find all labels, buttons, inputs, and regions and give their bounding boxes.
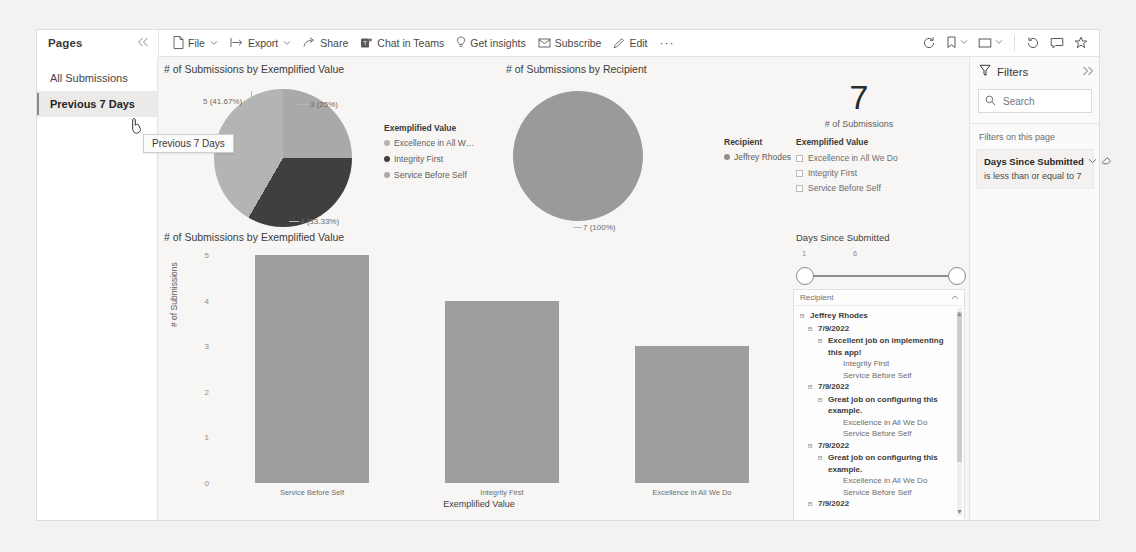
slider-handle-max[interactable] xyxy=(948,267,966,285)
checkbox-icon[interactable] xyxy=(796,170,803,177)
expand-collapse-icon[interactable]: ⊟ xyxy=(808,382,815,394)
tooltip-label: Previous 7 Days xyxy=(152,138,225,149)
subscribe-button[interactable]: Subscribe xyxy=(532,34,608,52)
pie-chart-recipient[interactable] xyxy=(513,91,643,221)
page-title: Pages xyxy=(48,37,82,49)
chevron-down-icon[interactable] xyxy=(1088,157,1097,166)
bookmark-icon[interactable] xyxy=(942,33,972,52)
report-canvas: # of Submissions by Exemplified Value 5 … xyxy=(159,57,969,521)
view-icon[interactable] xyxy=(974,34,1007,52)
expand-collapse-icon[interactable]: ⊟ xyxy=(800,311,807,323)
matrix-row[interactable]: ⊟Excellent job on implementing this app! xyxy=(800,335,954,358)
matrix-row[interactable]: Service Before Self xyxy=(800,428,954,440)
chevron-down-icon[interactable] xyxy=(283,40,291,46)
matrix-row[interactable]: ⊟Great job on configuring this example. xyxy=(800,452,954,475)
bar[interactable] xyxy=(255,255,369,483)
export-label: Export xyxy=(248,37,278,49)
slider-ticks: 1 6 xyxy=(796,249,966,263)
slicer-option[interactable]: Service Before Self xyxy=(796,183,898,193)
legend-swatch-icon xyxy=(384,172,390,178)
legend-item[interactable]: Integrity First xyxy=(384,154,474,164)
slider-track[interactable] xyxy=(796,265,966,287)
matrix-row[interactable]: ⊟Great job on configuring this example. xyxy=(800,394,954,417)
chevron-double-right-icon[interactable] xyxy=(1081,66,1094,78)
bar[interactable] xyxy=(445,301,559,483)
edit-button[interactable]: Edit xyxy=(607,34,653,52)
chat-in-teams-button[interactable]: T Chat in Teams xyxy=(354,34,450,52)
matrix-row[interactable]: Service Before Self xyxy=(800,370,954,382)
slicer-option-label: Excellence in All We Do xyxy=(808,153,898,163)
more-options-button[interactable]: ··· xyxy=(654,36,681,50)
pages-pane-header: Pages xyxy=(36,29,158,57)
bar[interactable] xyxy=(635,346,749,483)
comment-icon[interactable] xyxy=(1046,34,1068,52)
filters-search-box[interactable] xyxy=(978,89,1092,113)
matrix-row[interactable]: Integrity First xyxy=(800,358,954,370)
legend-item[interactable]: Service Before Self xyxy=(384,170,474,180)
search-input[interactable] xyxy=(1001,95,1085,108)
matrix-row[interactable]: ⊟7/9/2022 xyxy=(800,440,954,453)
matrix-row-label: 7/9/2022 xyxy=(818,498,849,510)
chevron-down-icon[interactable] xyxy=(960,38,968,47)
matrix-row[interactable]: ⊟7/9/2022 xyxy=(800,381,954,394)
scroll-down-arrow-icon[interactable]: ▼ xyxy=(956,508,963,515)
matrix-row-label: Great job on configuring this example. xyxy=(828,452,954,475)
matrix-scrollbar-thumb[interactable] xyxy=(957,312,962,462)
legend-item[interactable]: Jeffrey Rhodes xyxy=(724,152,791,162)
chevron-down-icon[interactable] xyxy=(995,38,1003,47)
teams-icon: T xyxy=(360,37,373,49)
export-button[interactable]: Export xyxy=(224,34,297,52)
checkbox-icon[interactable] xyxy=(796,185,803,192)
recipient-matrix[interactable]: Recipient ⊟Jeffrey Rhodes⊟7/9/2022⊟Excel… xyxy=(793,289,965,521)
expand-collapse-icon[interactable]: ⊟ xyxy=(808,499,815,511)
legend-label: Jeffrey Rhodes xyxy=(734,152,791,162)
matrix-row[interactable]: ⊟Jeffrey Rhodes xyxy=(800,310,954,323)
expand-collapse-icon[interactable]: ⊟ xyxy=(818,453,825,465)
scroll-up-arrow-icon[interactable]: ▲ xyxy=(956,310,963,317)
pie-slice-label: 5 (41.67%) xyxy=(203,97,242,106)
filter-card-days-since-submitted[interactable]: Days Since Submitted is less than or equ… xyxy=(976,149,1094,189)
matrix-row[interactable]: ⊟7/9/2022 xyxy=(800,498,954,511)
legend-swatch-icon xyxy=(384,140,390,146)
expand-collapse-icon[interactable]: ⊟ xyxy=(818,395,825,407)
matrix-row-label: 7/9/2022 xyxy=(818,440,849,452)
chevron-up-icon[interactable] xyxy=(951,293,959,302)
bar-chart-submissions-by-exemplified-value[interactable]: # of Submissions by Exemplified Value # … xyxy=(159,231,799,521)
slicer-option[interactable]: Excellence in All We Do xyxy=(796,153,898,163)
expand-collapse-icon[interactable]: ⊟ xyxy=(818,336,825,348)
share-button[interactable]: Share xyxy=(297,34,354,52)
filter-description: is less than or equal to 7 xyxy=(984,171,1087,181)
matrix-row-label: Excellent job on implementing this app! xyxy=(828,335,954,358)
share-icon xyxy=(303,37,316,49)
kpi-card[interactable]: 7 # of Submissions xyxy=(759,79,959,129)
pie-chart-exemplified-value[interactable] xyxy=(214,89,352,227)
matrix-row-label: Service Before Self xyxy=(843,428,911,440)
reset-icon[interactable] xyxy=(918,33,940,53)
chevron-down-icon[interactable] xyxy=(210,40,218,46)
slider-rail xyxy=(805,275,957,277)
lightbulb-icon xyxy=(456,36,466,49)
bar-chart-x-tick: Excellence in All We Do xyxy=(652,488,731,497)
chevron-double-left-icon[interactable] xyxy=(137,36,150,50)
expand-collapse-icon[interactable]: ⊟ xyxy=(808,324,815,336)
slider-min-tick: 1 xyxy=(802,249,806,258)
slicer-option[interactable]: Integrity First xyxy=(796,168,898,178)
matrix-row[interactable]: ⊟7/9/2022 xyxy=(800,323,954,336)
page-tooltip: Previous 7 Days xyxy=(143,134,234,153)
clear-filter-icon[interactable] xyxy=(1101,155,1112,168)
matrix-row[interactable]: Excellence in All We Do xyxy=(800,417,954,429)
legend-swatch-icon xyxy=(724,154,730,160)
legend-item[interactable]: Excellence in All W… xyxy=(384,138,474,148)
matrix-row[interactable]: Service Before Self xyxy=(800,487,954,499)
sidebar-item-all-submissions[interactable]: All Submissions xyxy=(36,65,157,91)
expand-collapse-icon[interactable]: ⊟ xyxy=(808,441,815,453)
get-insights-button[interactable]: Get insights xyxy=(450,33,531,52)
file-button[interactable]: File xyxy=(167,33,224,52)
favorite-star-icon[interactable] xyxy=(1070,33,1092,52)
svg-text:T: T xyxy=(364,40,368,46)
sidebar-item-previous-7-days[interactable]: Previous 7 Days xyxy=(36,91,157,117)
checkbox-icon[interactable] xyxy=(796,155,803,162)
refresh-icon[interactable] xyxy=(1022,33,1044,53)
matrix-row[interactable]: Excellence in All We Do xyxy=(800,475,954,487)
leader-line xyxy=(251,91,252,98)
